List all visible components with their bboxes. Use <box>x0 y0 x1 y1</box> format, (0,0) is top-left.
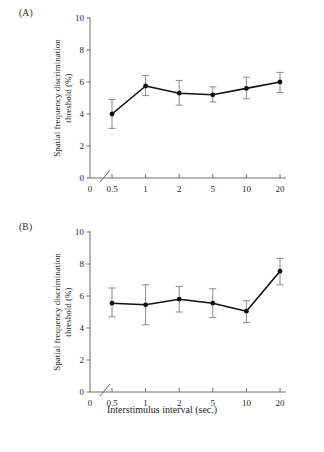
y-tick-label: 8 <box>80 45 85 55</box>
x-tick-label: 2 <box>177 184 182 194</box>
x-tick-label: 10 <box>242 184 252 194</box>
x-tick-label: 20 <box>276 184 286 194</box>
data-point <box>143 302 148 307</box>
x-tick-label: 0 <box>88 184 93 194</box>
data-point <box>177 297 182 302</box>
panel-a-plot: 024681000.51251020 <box>0 0 324 214</box>
data-point <box>110 301 115 306</box>
y-tick-label: 8 <box>80 259 85 269</box>
y-tick-label: 4 <box>80 323 85 333</box>
panel-b-plot: 024681000.51251020 <box>0 214 324 428</box>
axis-break-mark <box>100 384 110 396</box>
data-line <box>112 82 280 114</box>
figure: (A) Spatial frequency discrimination thr… <box>0 0 324 452</box>
y-tick-label: 6 <box>80 77 85 87</box>
y-tick-label: 4 <box>80 109 85 119</box>
x-tick-label: 1 <box>143 184 148 194</box>
y-tick-label: 2 <box>80 355 85 365</box>
y-tick-label: 2 <box>80 141 85 151</box>
data-line <box>112 271 280 311</box>
data-point <box>278 80 283 85</box>
data-point <box>278 269 283 274</box>
y-tick-label: 10 <box>75 227 85 237</box>
data-point <box>143 84 148 89</box>
error-bars <box>109 72 284 128</box>
x-tick-label: 0.5 <box>106 184 118 194</box>
error-bars <box>109 258 284 324</box>
panel-b: (B) Spatial frequency discrimination thr… <box>0 214 324 428</box>
y-tick-label: 6 <box>80 291 85 301</box>
data-point <box>244 309 249 314</box>
y-tick-label: 0 <box>80 387 85 397</box>
data-point <box>244 86 249 91</box>
panel-a: (A) Spatial frequency discrimination thr… <box>0 0 324 214</box>
x-axis-title: Interstimulus interval (sec.) <box>0 404 324 415</box>
data-point <box>210 92 215 97</box>
axis-break-mark <box>100 170 110 182</box>
data-point <box>110 112 115 117</box>
x-tick-label: 5 <box>211 184 216 194</box>
y-tick-label: 0 <box>80 173 85 183</box>
data-point <box>177 91 182 96</box>
y-tick-label: 10 <box>75 13 85 23</box>
data-point <box>210 301 215 306</box>
